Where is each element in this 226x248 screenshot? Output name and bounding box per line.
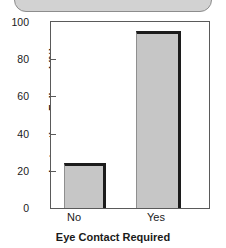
y-tick-mark-80: [51, 59, 56, 60]
y-tick-label-20: 20: [3, 166, 29, 177]
y-tick-label-80: 80: [3, 54, 29, 65]
y-tick-label-0: 0: [3, 203, 29, 214]
x-axis-title: Eye Contact Required: [0, 231, 226, 243]
bar-yes: [136, 31, 181, 208]
x-tick-label-yes: Yes: [125, 211, 187, 223]
y-tick-mark-20: [51, 171, 56, 172]
y-tick-label-100: 100: [3, 17, 29, 28]
x-tick-label-no: No: [43, 211, 105, 223]
bar-chart-figure: Instructions Followed (%) 0 20 40 60 80 …: [0, 0, 226, 248]
plot-area: 0 20 40 60 80 100: [50, 21, 210, 209]
y-tick-label-40: 40: [3, 129, 29, 140]
y-tick-label-60: 60: [3, 91, 29, 102]
y-tick-mark-40: [51, 134, 56, 135]
bar-no: [64, 163, 106, 208]
y-tick-mark-60: [51, 96, 56, 97]
